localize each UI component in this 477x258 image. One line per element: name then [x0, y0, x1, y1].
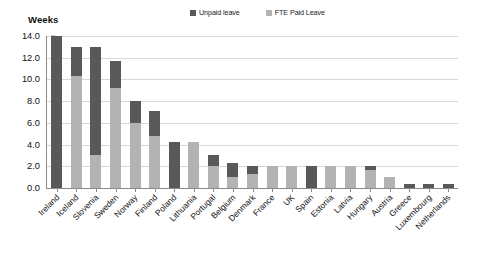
bar-slot[interactable]	[145, 36, 165, 188]
bar-slot[interactable]	[262, 36, 282, 188]
y-axis-tick-label: 0.0	[27, 183, 40, 193]
bar-slot[interactable]	[380, 36, 400, 188]
bar-slot[interactable]	[164, 36, 184, 188]
bar-segment-unpaid-leave[interactable]	[149, 111, 160, 136]
bar-stack[interactable]	[110, 61, 121, 188]
plot-area	[47, 36, 458, 188]
bar-segment-unpaid-leave[interactable]	[71, 47, 82, 76]
y-axis-tick-label: 4.0	[27, 140, 40, 150]
stacked-bar-chart: Unpaid leave FTE Paid Leave Weeks 0.02.0…	[0, 0, 477, 258]
bar-segment-unpaid-leave[interactable]	[90, 47, 101, 156]
bar-segment-unpaid-leave[interactable]	[306, 166, 317, 188]
bar-slot[interactable]	[419, 36, 439, 188]
bar-slot[interactable]	[204, 36, 224, 188]
bar-slot[interactable]	[341, 36, 361, 188]
x-axis-label-slot: France	[262, 192, 282, 254]
bar-slot[interactable]	[243, 36, 263, 188]
square-swatch-icon	[266, 10, 272, 16]
legend-label: Unpaid leave	[199, 9, 240, 17]
bar-slot[interactable]	[321, 36, 341, 188]
bar-slot[interactable]	[282, 36, 302, 188]
bar-slot[interactable]	[223, 36, 243, 188]
bar-segment-unpaid-leave[interactable]	[208, 155, 219, 166]
bar-slot[interactable]	[184, 36, 204, 188]
bar-stack[interactable]	[90, 47, 101, 188]
bar-slot[interactable]	[106, 36, 126, 188]
square-swatch-icon	[190, 10, 196, 16]
chart-legend: Unpaid leave FTE Paid Leave	[190, 6, 390, 20]
bar-segment-unpaid-leave[interactable]	[130, 101, 141, 123]
bar-slot[interactable]	[86, 36, 106, 188]
bar-slot[interactable]	[302, 36, 322, 188]
y-axis-tick-label: 12.0	[22, 53, 40, 63]
bar-segment-unpaid-leave[interactable]	[110, 61, 121, 88]
y-axis-tick-label: 14.0	[22, 31, 40, 41]
bar-slot[interactable]	[399, 36, 419, 188]
bar-stack[interactable]	[71, 47, 82, 188]
legend-item-fte-paid-leave[interactable]: FTE Paid Leave	[266, 9, 325, 17]
y-axis-tick-labels: 0.02.04.06.08.010.012.014.0	[8, 36, 44, 188]
y-axis-tick-label: 6.0	[27, 118, 40, 128]
bar-slot[interactable]	[360, 36, 380, 188]
bar-segment-fte-paid-leave[interactable]	[71, 76, 82, 188]
x-axis-label-slot: Netherlands	[439, 192, 459, 254]
y-axis-tick-label: 10.0	[22, 74, 40, 84]
bar-segment-unpaid-leave[interactable]	[51, 36, 62, 188]
y-axis-tick-label: 2.0	[27, 161, 40, 171]
bar-slot[interactable]	[47, 36, 67, 188]
bar-stack[interactable]	[306, 166, 317, 188]
bar-slot[interactable]	[125, 36, 145, 188]
y-axis-title: Weeks	[28, 14, 58, 25]
bar-series-container	[47, 36, 458, 188]
y-axis-tick-label: 8.0	[27, 96, 40, 106]
legend-label: FTE Paid Leave	[275, 9, 325, 17]
bar-slot[interactable]	[67, 36, 87, 188]
x-axis-category-labels: IrelandIcelandSloveniaSwedenNorwayFinlan…	[47, 192, 458, 254]
bar-stack[interactable]	[51, 36, 62, 188]
legend-item-unpaid-leave[interactable]: Unpaid leave	[190, 9, 240, 17]
